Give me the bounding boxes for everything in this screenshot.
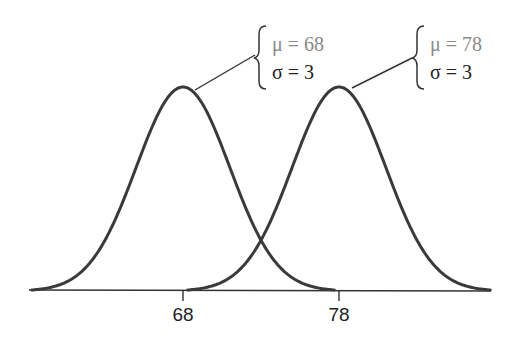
- annotation-mu-68: μ = 68 σ = 3: [195, 26, 324, 90]
- brace-icon: [412, 26, 424, 89]
- sigma-label: σ = 3: [272, 61, 314, 83]
- curve-mu-78: [188, 87, 491, 290]
- x-ticks: 6878: [172, 290, 349, 325]
- annotation-mu-78: μ = 78 σ = 3: [352, 26, 482, 89]
- sigma-label: σ = 3: [430, 61, 472, 83]
- leader-line: [195, 55, 255, 90]
- normal-distribution-chart: 6878 μ = 68 σ = 3 μ = 78 σ = 3: [0, 0, 526, 340]
- leader-line: [352, 58, 412, 88]
- brace-icon: [254, 26, 266, 89]
- x-axis: [29, 290, 491, 291]
- x-tick-label: 78: [328, 304, 349, 325]
- mu-label: μ = 68: [272, 33, 324, 56]
- x-tick-label: 68: [172, 304, 193, 325]
- mu-label: μ = 78: [430, 33, 482, 56]
- curve-mu-68: [32, 87, 335, 290]
